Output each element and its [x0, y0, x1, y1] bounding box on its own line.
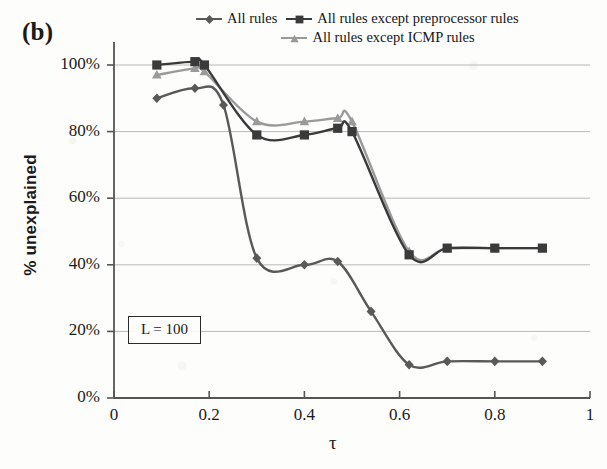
data-point-marker — [443, 357, 452, 367]
data-point-marker — [333, 124, 342, 133]
annotation-box: L = 100 — [128, 316, 201, 344]
data-point-marker — [300, 130, 309, 139]
data-point-marker — [152, 94, 161, 104]
data-point-marker — [490, 244, 499, 253]
chart-plot-area — [0, 0, 607, 469]
data-point-marker — [300, 260, 309, 270]
data-point-marker — [252, 130, 261, 139]
series-all-rules-except-icmp-rules — [152, 63, 547, 260]
data-point-marker — [538, 357, 547, 367]
data-point-marker — [219, 100, 228, 110]
data-point-marker — [190, 84, 199, 94]
data-point-marker — [443, 244, 452, 253]
data-point-marker — [152, 60, 161, 69]
data-point-marker — [490, 357, 499, 367]
data-point-marker — [347, 127, 356, 136]
data-point-marker — [538, 244, 547, 253]
series-line — [157, 66, 543, 260]
data-point-marker — [200, 60, 209, 69]
data-point-marker — [190, 57, 199, 66]
data-point-marker — [405, 250, 414, 259]
